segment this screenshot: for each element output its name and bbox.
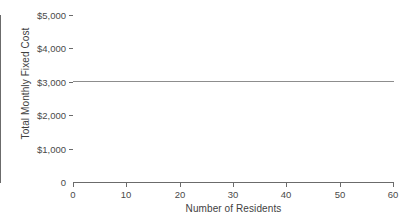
y-axis-line [0,15,1,183]
y-tick-mark-1000 [69,149,73,150]
x-tick-mark-60 [393,183,394,187]
y-tick-mark-5000 [69,15,73,16]
x-axis-title: Number of Residents [73,203,394,214]
series-line-total-monthly-fixed-cost [73,81,394,82]
x-tick-mark-50 [340,183,341,187]
x-tick-mark-40 [286,183,287,187]
x-tick-label-30: 30 [213,190,253,200]
x-tick-mark-30 [233,183,234,187]
y-tick-label-1000: $1,000 [8,145,66,155]
y-axis-title: Total Monthly Fixed Cost [20,14,31,154]
y-tick-mark-2000 [69,115,73,116]
x-tick-label-40: 40 [266,190,306,200]
y-tick-label-5000: $5,000 [8,11,66,21]
y-tick-label-2000: $2,000 [8,111,66,121]
x-tick-label-50: 50 [320,190,360,200]
y-tick-label-3000: $3,000 [8,78,66,88]
x-tick-label-60: 60 [373,190,413,200]
x-tick-mark-0 [73,183,74,187]
x-tick-mark-10 [126,183,127,187]
x-tick-label-0: 0 [53,190,93,200]
chart-figure: $5,000 $4,000 $3,000 $2,000 $1,000 0 0 1… [0,0,415,223]
y-tick-label-4000: $4,000 [8,44,66,54]
x-tick-label-20: 20 [160,190,200,200]
y-tick-label-0: 0 [8,178,66,188]
x-tick-label-10: 10 [106,190,146,200]
x-tick-mark-20 [180,183,181,187]
y-tick-mark-4000 [69,48,73,49]
